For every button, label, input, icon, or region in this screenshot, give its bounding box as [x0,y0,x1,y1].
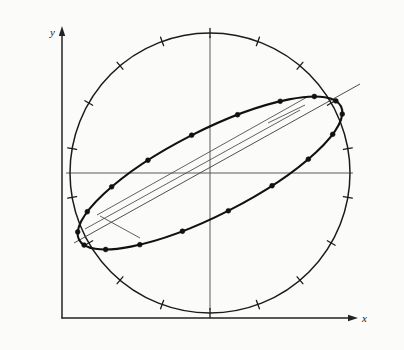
x-axis-label: x [361,312,367,324]
ellipse-sample-point [109,184,114,189]
ellipse-sample-point [226,208,231,213]
ellipse-sample-point [180,229,185,234]
ellipse-sample-point [75,230,80,235]
ellipse-sample-point [235,112,240,117]
ellipse-sample-point [340,112,345,117]
figure-background [0,0,404,350]
ellipse-sample-point [278,99,283,104]
ellipse-sample-point [103,247,108,252]
ellipse-sample-point [85,209,90,214]
ellipse-sample-point [146,158,151,163]
y-axis-label: y [49,26,55,38]
ellipse-sample-point [270,183,275,188]
ellipse-sample-point [334,99,339,104]
ellipse-sample-point [312,94,317,99]
ellipse-sample-point [306,157,311,162]
ellipse-sample-point [82,243,87,248]
ellipse-sample-point [137,242,142,247]
ellipse-sample-point [330,132,335,137]
figure-root: y x [0,0,404,350]
ellipse-sample-point [189,133,194,138]
ellipse-circle-diagram: y x [0,0,404,350]
